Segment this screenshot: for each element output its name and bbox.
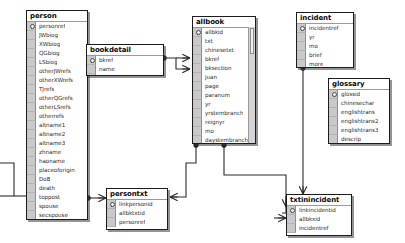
field-row[interactable]: juan — [193, 73, 255, 82]
field-name: mo — [202, 127, 214, 136]
field-row[interactable]: reignyr — [193, 118, 255, 127]
field-row[interactable]: yr — [297, 33, 353, 42]
field-row[interactable]: glossid — [329, 90, 389, 99]
field-name: DoB — [36, 175, 50, 184]
field-marker-icon — [27, 211, 36, 220]
field-row[interactable]: altname2 — [27, 130, 87, 139]
field-row[interactable]: bksection — [193, 64, 255, 73]
field-name: yr — [306, 33, 315, 42]
field-marker-icon — [329, 135, 338, 144]
field-row[interactable]: allbkxid — [287, 215, 351, 224]
field-row[interactable]: placeoforigin — [27, 166, 87, 175]
field-row[interactable]: englishtrans2 — [329, 117, 389, 126]
field-marker-icon — [27, 103, 36, 112]
field-row[interactable]: descrip — [329, 135, 389, 144]
field-row[interactable]: englishtrans — [329, 108, 389, 117]
scrollbar-thumb[interactable] — [250, 28, 254, 54]
table-glossary[interactable]: glossaryglossidchinesecharenglishtransen… — [328, 78, 390, 144]
field-name: incidentref — [306, 24, 339, 33]
table-bookdetail[interactable]: bookdetailbkrefnamedetail — [86, 44, 164, 76]
field-row[interactable]: yr — [193, 100, 255, 109]
field-row[interactable]: personref — [27, 22, 87, 31]
relationship-allbook-persontxt — [170, 145, 196, 197]
field-row[interactable]: englishtrans3 — [329, 126, 389, 135]
field-row[interactable]: chinesetxt — [193, 46, 255, 55]
field-name: placeoforigin — [36, 166, 75, 175]
field-row[interactable]: zhname — [27, 148, 87, 157]
table-title-txtinincident: txtinincident — [287, 195, 351, 206]
field-row[interactable]: XWbiog — [27, 40, 87, 49]
field-row[interactable]: bkref — [87, 56, 163, 65]
field-marker-icon — [27, 58, 36, 67]
table-incident[interactable]: incidentincidentrefyrmobriefmore — [296, 12, 354, 68]
field-row[interactable]: altname3 — [27, 139, 87, 148]
field-row[interactable]: otherrefs — [27, 112, 87, 121]
field-marker-icon — [27, 121, 36, 130]
field-row[interactable]: otherQGrefs — [27, 94, 87, 103]
field-name: more — [306, 60, 323, 68]
field-marker-icon — [27, 157, 36, 166]
field-row[interactable]: incidentref — [287, 224, 351, 233]
field-row[interactable]: mo — [297, 42, 353, 51]
field-row[interactable]: personref — [107, 218, 167, 227]
field-row[interactable]: brief — [297, 51, 353, 60]
field-row[interactable]: mo — [193, 127, 255, 136]
field-row[interactable]: linkincidentid — [287, 206, 351, 215]
field-row[interactable]: toppost — [27, 193, 87, 202]
relationship-bookdetail-allbook — [164, 58, 190, 69]
field-row[interactable]: haoname — [27, 157, 87, 166]
field-row[interactable]: DoB — [27, 175, 87, 184]
field-row[interactable]: yrstembranch — [193, 109, 255, 118]
field-name: JWbiog — [36, 31, 58, 40]
field-marker-icon — [27, 40, 36, 49]
field-marker-icon — [193, 136, 202, 144]
field-marker-icon — [27, 202, 36, 211]
primary-key-icon — [87, 56, 96, 65]
field-row[interactable]: TJrefs — [27, 85, 87, 94]
field-name: paranum — [202, 91, 230, 100]
field-row[interactable]: txt — [193, 37, 255, 46]
field-row[interactable]: linkpersonid — [107, 200, 167, 209]
field-row[interactable]: detail — [87, 74, 163, 76]
field-name: QGbiog — [36, 49, 60, 58]
field-row[interactable]: page — [193, 82, 255, 91]
field-row[interactable]: QGbiog — [27, 49, 87, 58]
field-row[interactable]: allbkid — [193, 28, 255, 37]
table-person[interactable]: personpersonrefJWbiogXWbiogQGbiogLSbiogo… — [26, 10, 88, 220]
field-row[interactable]: otherXWrefs — [27, 76, 87, 85]
field-name: chinesetxt — [202, 46, 234, 55]
field-row[interactable]: secspouse — [27, 211, 87, 220]
field-name: bkref — [202, 55, 219, 64]
field-row[interactable]: altname1 — [27, 121, 87, 130]
field-list-txtinincident: linkincidentidallbkxidincidentref — [287, 206, 351, 233]
field-row[interactable]: LSbiog — [27, 58, 87, 67]
field-name: haoname — [36, 157, 65, 166]
field-name: bksection — [202, 64, 232, 73]
relationship-allbook-txtinincident — [224, 145, 286, 207]
field-name: allbkid — [202, 28, 223, 37]
table-scrollbar-allbook[interactable] — [248, 27, 255, 143]
field-row[interactable]: death — [27, 184, 87, 193]
field-row[interactable]: name — [87, 65, 163, 74]
field-name: linkincidentid — [296, 206, 336, 215]
table-persontxt[interactable]: persontxtlinkpersonidallbktxtidpersonref — [106, 188, 168, 230]
field-row[interactable]: chinesechar — [329, 99, 389, 108]
field-row[interactable]: paranum — [193, 91, 255, 100]
table-title-bookdetail: bookdetail — [87, 45, 163, 56]
field-marker-icon — [27, 139, 36, 148]
field-row[interactable]: spouse — [27, 202, 87, 211]
field-marker-icon — [287, 215, 296, 224]
field-row[interactable]: JWbiog — [27, 31, 87, 40]
primary-key-icon — [27, 22, 36, 31]
table-txtinincident[interactable]: txtinincidentlinkincidentidallbkxidincid… — [286, 194, 352, 236]
field-name: descrip — [338, 135, 361, 144]
field-row[interactable]: more — [297, 60, 353, 68]
table-title-persontxt: persontxt — [107, 189, 167, 200]
field-row[interactable]: daystembranch — [193, 136, 255, 144]
field-row[interactable]: incidentref — [297, 24, 353, 33]
field-row[interactable]: bkref — [193, 55, 255, 64]
field-row[interactable]: otherLSrefs — [27, 103, 87, 112]
field-row[interactable]: allbktxtid — [107, 209, 167, 218]
table-allbook[interactable]: allbookallbkidtxtchinesetxtbkrefbksectio… — [192, 16, 256, 144]
field-row[interactable]: otherJWrefs — [27, 67, 87, 76]
